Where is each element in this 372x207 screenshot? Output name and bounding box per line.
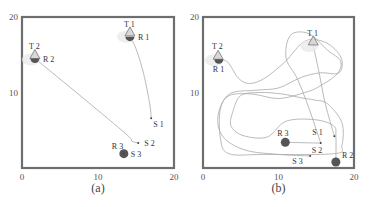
marker-label: R 3 xyxy=(112,142,123,151)
start-point-marker xyxy=(150,117,152,119)
start-point-marker xyxy=(309,155,311,157)
marker-label: S 3 xyxy=(131,150,141,159)
panel-caption: (a) xyxy=(91,181,104,195)
marker-label: S 3 xyxy=(292,157,302,166)
panel-a: 010201020(a)T 1R 1T 2R 2S 1S 2R 3S 3 xyxy=(9,12,179,195)
trajectory-r3-final xyxy=(285,142,320,143)
y-tick-label: 10 xyxy=(9,88,19,98)
panel-caption: (b) xyxy=(272,181,286,195)
start-point-marker xyxy=(320,142,322,144)
marker-label: R 2 xyxy=(342,151,353,160)
marker-label: S 2 xyxy=(312,146,322,155)
marker-label: T 2 xyxy=(212,42,223,51)
trajectory-r1-path xyxy=(130,37,151,119)
marker-label: T 1 xyxy=(307,29,318,38)
marker-label: S 1 xyxy=(312,128,322,137)
trajectory-figure: 010201020(a)T 1R 1T 2R 2S 1S 2R 3S 3 010… xyxy=(0,0,372,207)
marker-label: R 1 xyxy=(138,33,149,42)
x-tick-label: 20 xyxy=(350,172,360,182)
marker-label: R 3 xyxy=(277,129,288,138)
y-tick-label: 10 xyxy=(190,88,200,98)
robot-marker xyxy=(331,157,340,166)
x-tick-label: 0 xyxy=(20,172,25,182)
marker-label: S 1 xyxy=(153,120,163,129)
robot-marker xyxy=(281,138,290,147)
marker-label: S 2 xyxy=(144,139,154,148)
marker-label: R 1 xyxy=(213,65,224,74)
y-tick-label: 20 xyxy=(190,12,200,22)
x-tick-label: 0 xyxy=(201,172,206,182)
trajectory-r1-path xyxy=(313,45,334,136)
x-tick-label: 20 xyxy=(170,172,180,182)
trajectory-r2-path xyxy=(35,59,138,144)
marker-label: T 1 xyxy=(124,20,135,29)
start-point-marker xyxy=(333,135,335,137)
plot-frame xyxy=(203,17,354,168)
marker-label: R 2 xyxy=(43,55,54,64)
marker-label: T 2 xyxy=(29,42,40,51)
start-point-marker xyxy=(123,153,125,155)
start-point-marker xyxy=(137,142,139,144)
panel-b: 010201020(b)T 1T 2R 1S 1S 2S 3R 3R 2 xyxy=(190,12,359,195)
y-tick-label: 20 xyxy=(9,12,19,22)
